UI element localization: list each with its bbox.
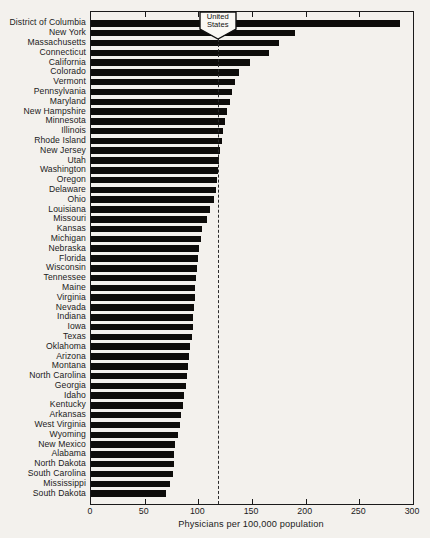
bar-massachusetts <box>91 40 279 47</box>
axis-tick-50 <box>145 12 146 17</box>
bar-tennessee <box>91 275 196 282</box>
bar-nebraska <box>91 245 199 252</box>
category-label: Minnesota <box>0 116 86 125</box>
category-label: Montana <box>0 361 86 370</box>
category-label: Colorado <box>0 67 86 76</box>
bar-idaho <box>91 392 184 399</box>
bar-illinois <box>91 128 223 135</box>
category-label: New Mexico <box>0 439 86 448</box>
category-label: North Dakota <box>0 459 86 468</box>
bar-wisconsin <box>91 265 197 272</box>
category-label: Tennessee <box>0 273 86 282</box>
axis-tick-100 <box>198 499 199 504</box>
category-label: Nebraska <box>0 243 86 252</box>
category-label: Kentucky <box>0 400 86 409</box>
category-label: Idaho <box>0 390 86 399</box>
category-label: Utah <box>0 155 86 164</box>
category-label: Ohio <box>0 194 86 203</box>
axis-tick-150 <box>252 12 253 17</box>
category-label: Florida <box>0 253 86 262</box>
category-label: Nevada <box>0 302 86 311</box>
category-label: Delaware <box>0 184 86 193</box>
x-axis-title: Physicians per 100,000 population <box>90 519 412 529</box>
category-label: Washington <box>0 165 86 174</box>
bar-west-virginia <box>91 422 180 429</box>
category-label: Iowa <box>0 322 86 331</box>
bar-oklahoma <box>91 343 190 350</box>
bar-georgia <box>91 383 186 390</box>
category-label: Rhode Island <box>0 135 86 144</box>
callout-label: United States <box>199 13 237 29</box>
bar-utah <box>91 157 219 164</box>
category-label: Georgia <box>0 380 86 389</box>
category-label: Oklahoma <box>0 341 86 350</box>
category-label: Mississippi <box>0 478 86 487</box>
category-label: Wyoming <box>0 429 86 438</box>
plot-area: United States <box>90 11 414 505</box>
callout-label-line2: States <box>199 21 237 29</box>
bar-vermont <box>91 79 235 86</box>
category-label: California <box>0 57 86 66</box>
bar-arizona <box>91 353 189 360</box>
bar-new-mexico <box>91 441 175 448</box>
bar-kentucky <box>91 402 183 409</box>
category-label: Kansas <box>0 224 86 233</box>
bar-florida <box>91 255 198 262</box>
bar-iowa <box>91 324 193 331</box>
category-label: South Carolina <box>0 469 86 478</box>
bar-missouri <box>91 216 207 223</box>
x-tick-label-250: 250 <box>338 506 378 516</box>
category-label: South Dakota <box>0 488 86 497</box>
category-label: Pennsylvania <box>0 87 86 96</box>
category-label: New Jersey <box>0 145 86 154</box>
bar-virginia <box>91 294 195 301</box>
category-label: Alabama <box>0 449 86 458</box>
bar-north-carolina <box>91 373 187 380</box>
bar-montana <box>91 363 188 370</box>
category-label: Massachusetts <box>0 38 86 47</box>
category-label: Indiana <box>0 312 86 321</box>
bar-new-york <box>91 30 295 37</box>
bar-oregon <box>91 177 217 184</box>
bar-delaware <box>91 187 216 194</box>
bar-new-jersey <box>91 147 220 154</box>
category-label: New York <box>0 28 86 37</box>
category-label: Arkansas <box>0 410 86 419</box>
bar-connecticut <box>91 50 269 57</box>
category-label: Virginia <box>0 292 86 301</box>
chart-figure: United States District of ColumbiaNew Yo… <box>0 0 430 538</box>
category-label: Arizona <box>0 351 86 360</box>
axis-tick-200 <box>306 12 307 17</box>
category-label: Texas <box>0 331 86 340</box>
bar-south-dakota <box>91 490 166 497</box>
us-average-callout: United States <box>199 11 237 40</box>
category-label: New Hampshire <box>0 106 86 115</box>
bar-nevada <box>91 304 194 311</box>
x-tick-label-300: 300 <box>392 506 430 516</box>
bar-texas <box>91 334 192 341</box>
axis-tick-200 <box>306 499 307 504</box>
bar-indiana <box>91 314 193 321</box>
bar-california <box>91 59 250 66</box>
bar-south-carolina <box>91 471 173 478</box>
bar-maine <box>91 285 195 292</box>
category-label: West Virginia <box>0 420 86 429</box>
x-tick-label-200: 200 <box>285 506 325 516</box>
bar-kansas <box>91 226 202 233</box>
axis-tick-50 <box>145 499 146 504</box>
x-tick-label-150: 150 <box>231 506 271 516</box>
bar-mississippi <box>91 481 170 488</box>
category-label: Missouri <box>0 214 86 223</box>
bar-north-dakota <box>91 461 174 468</box>
category-label: North Carolina <box>0 371 86 380</box>
category-label: Louisiana <box>0 204 86 213</box>
category-label: Wisconsin <box>0 263 86 272</box>
axis-tick-150 <box>252 499 253 504</box>
bar-district-of-columbia <box>91 20 400 27</box>
axis-tick-250 <box>359 499 360 504</box>
bar-pennsylvania <box>91 89 232 96</box>
bar-michigan <box>91 236 201 243</box>
bar-louisiana <box>91 206 210 213</box>
category-label: Maryland <box>0 96 86 105</box>
bar-minnesota <box>91 118 225 125</box>
